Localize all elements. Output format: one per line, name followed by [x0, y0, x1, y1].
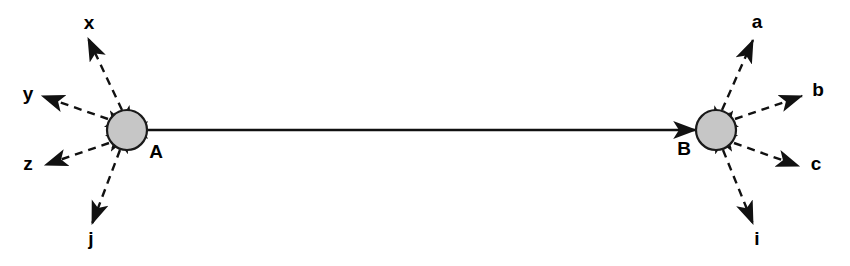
spoke-edge-b-b: [735, 96, 802, 119]
endpoint-label-j: j: [87, 228, 93, 249]
endpoint-label-z: z: [23, 153, 33, 174]
spoke-edge-a-z: [45, 143, 109, 165]
spoke-edge-a-y: [42, 96, 108, 119]
diagram-svg: xyzjabciAB: [0, 0, 850, 266]
node-circle-b: [696, 110, 736, 150]
endpoint-label-c: c: [811, 153, 822, 174]
spoke-edge-b-i: [723, 150, 753, 224]
endpoint-label-i: i: [754, 228, 759, 249]
endpoint-label-b: b: [812, 79, 824, 100]
endpoint-label-x: x: [84, 12, 95, 33]
spoke-edge-b-a: [722, 40, 753, 110]
spoke-edge-b-c: [734, 143, 799, 166]
spoke-edge-a-x: [88, 38, 122, 110]
node-label-b: B: [677, 138, 691, 159]
node-circle-a: [107, 110, 147, 150]
diagram-canvas: xyzjabciAB: [0, 0, 850, 266]
endpoint-label-a: a: [752, 11, 763, 32]
spoke-edge-a-j: [92, 150, 120, 224]
endpoint-label-y: y: [23, 83, 34, 104]
node-label-a: A: [149, 141, 163, 162]
